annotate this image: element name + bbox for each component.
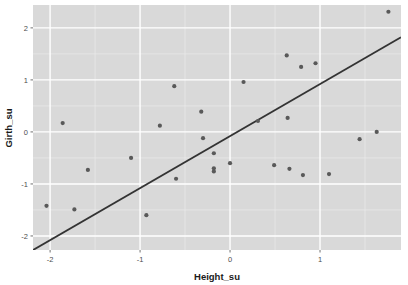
y-tick-label: 2 xyxy=(24,24,28,33)
data-point xyxy=(201,136,205,140)
data-point xyxy=(174,177,178,181)
plot-panel xyxy=(33,5,401,250)
data-point xyxy=(327,172,331,176)
x-tick-label: 1 xyxy=(318,255,322,264)
data-point xyxy=(228,161,232,165)
data-point xyxy=(386,10,390,14)
y-tick-label: -1 xyxy=(21,180,28,189)
data-point xyxy=(301,173,305,177)
plot-canvas: -2-101 -2-1012 Height_su Girth_su xyxy=(0,0,408,285)
data-point xyxy=(287,167,291,171)
data-point xyxy=(299,65,303,69)
data-point xyxy=(256,119,260,123)
data-point xyxy=(61,121,65,125)
y-tick-label: -2 xyxy=(21,232,28,241)
x-axis-title: Height_su xyxy=(194,271,240,282)
y-axis-title: Girth_su xyxy=(3,108,14,147)
data-point xyxy=(72,207,76,211)
x-tick-label: -1 xyxy=(137,255,144,264)
data-point xyxy=(212,169,216,173)
data-point xyxy=(272,163,276,167)
data-point xyxy=(358,137,362,141)
y-tick-label: 0 xyxy=(24,128,28,137)
data-point xyxy=(212,151,216,155)
scatter-plot-figure: -2-101 -2-1012 Height_su Girth_su xyxy=(0,0,408,285)
data-point xyxy=(313,61,317,65)
data-point xyxy=(129,156,133,160)
data-point xyxy=(172,84,176,88)
x-tick-label: 0 xyxy=(228,255,232,264)
data-point xyxy=(286,116,290,120)
data-point xyxy=(241,80,245,84)
data-point xyxy=(199,110,203,114)
x-tick-label: -2 xyxy=(47,255,54,264)
y-tick-label: 1 xyxy=(24,76,28,85)
data-point xyxy=(375,130,379,134)
data-point xyxy=(144,213,148,217)
data-point xyxy=(285,53,289,57)
data-point xyxy=(158,124,162,128)
data-point xyxy=(44,204,48,208)
data-point xyxy=(86,168,90,172)
